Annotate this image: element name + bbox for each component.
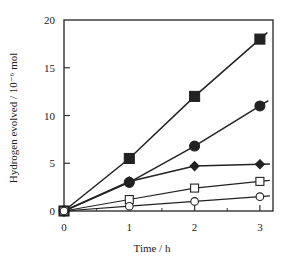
series-line xyxy=(64,101,268,211)
x-tick-label: 1 xyxy=(127,221,133,233)
filled-square-marker xyxy=(124,153,134,163)
filled-diamond-marker xyxy=(190,162,199,171)
hydrogen-evolution-chart: 051015200123 Time / h Hydrogen evolved /… xyxy=(0,0,286,263)
filled-square-marker xyxy=(190,91,200,101)
filled-diamond-marker xyxy=(255,160,264,169)
open-square-marker xyxy=(256,177,264,185)
open-circle-marker xyxy=(191,198,199,206)
filled-square-marker xyxy=(255,34,265,44)
open-circle-marker xyxy=(256,193,264,201)
series-line xyxy=(64,180,270,211)
series-filled-diamond xyxy=(60,160,270,216)
x-tick-label: 3 xyxy=(257,221,263,233)
plot-frame xyxy=(64,20,273,211)
filled-circle-marker xyxy=(255,101,265,111)
open-circle-marker xyxy=(126,202,134,210)
y-axis-title: Hydrogen evolved / 10⁻⁶ mol xyxy=(7,53,19,184)
plot-border xyxy=(64,20,273,211)
y-tick-label: 5 xyxy=(50,157,56,169)
open-circle-marker xyxy=(60,207,68,215)
filled-circle-marker xyxy=(190,141,200,151)
x-tick-label: 0 xyxy=(61,221,67,233)
y-tick-label: 10 xyxy=(44,110,56,122)
y-tick-label: 0 xyxy=(50,205,56,217)
data-series xyxy=(59,33,270,217)
open-square-marker xyxy=(191,184,199,192)
series-filled-square xyxy=(59,33,267,217)
y-tick-label: 15 xyxy=(44,62,56,74)
x-tick-label: 2 xyxy=(192,221,198,233)
x-axis-title: Time / h xyxy=(134,242,171,254)
y-tick-label: 20 xyxy=(44,14,56,26)
